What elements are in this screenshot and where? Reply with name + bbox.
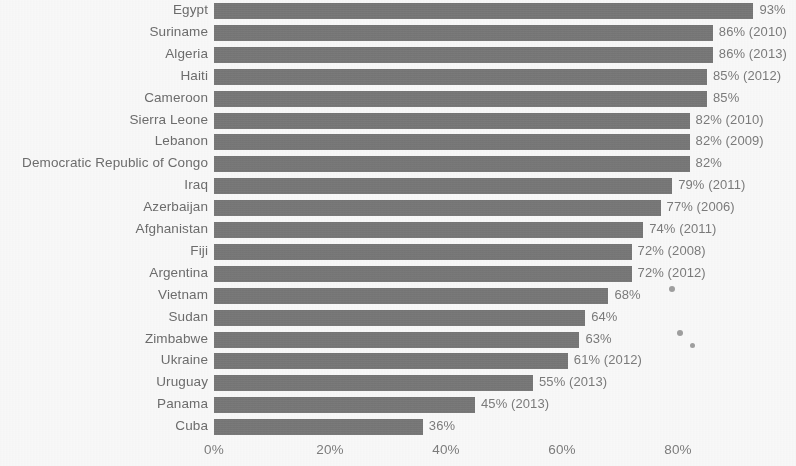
bar-value-label: 72% (2008) — [638, 243, 706, 259]
bar-value-label: 45% (2013) — [481, 396, 549, 412]
bar — [214, 47, 713, 63]
bar — [214, 91, 707, 107]
plot-area: Egypt93%Suriname86% (2010)Algeria86% (20… — [0, 0, 796, 466]
bar — [214, 266, 632, 282]
bar-value-label: 82% — [696, 155, 722, 171]
bar — [214, 244, 632, 260]
bar — [214, 69, 707, 85]
bar-row: Cameroon85% — [0, 90, 796, 112]
bar-value-label: 85% — [713, 90, 739, 106]
bar — [214, 353, 568, 369]
bar-row: Argentina72% (2012) — [0, 265, 796, 287]
bar-row: Uruguay55% (2013) — [0, 374, 796, 396]
bar-value-label: 77% (2006) — [667, 199, 735, 215]
bar-row: Ukraine61% (2012) — [0, 352, 796, 374]
category-label: Sierra Leone — [129, 112, 208, 128]
category-label: Fiji — [190, 243, 208, 259]
bar-value-label: 82% (2009) — [696, 133, 764, 149]
x-axis-tick-label: 40% — [432, 441, 460, 459]
bar — [214, 375, 533, 391]
bar — [214, 310, 585, 326]
scan-speck-artifact — [677, 330, 683, 336]
category-label: Democratic Republic of Congo — [22, 155, 208, 171]
category-label: Cuba — [175, 418, 208, 434]
category-label: Sudan — [168, 309, 208, 325]
bar — [214, 288, 608, 304]
x-axis-tick-label: 80% — [664, 441, 692, 459]
bar — [214, 134, 690, 150]
bar — [214, 156, 690, 172]
bar-row: Algeria86% (2013) — [0, 46, 796, 68]
bar — [214, 397, 475, 413]
bar-value-label: 61% (2012) — [574, 352, 642, 368]
category-label: Algeria — [165, 46, 208, 62]
bar-value-label: 82% (2010) — [696, 112, 764, 128]
category-label: Zimbabwe — [145, 331, 208, 347]
scan-speck-artifact — [669, 286, 675, 292]
category-label: Haiti — [180, 68, 208, 84]
bar-value-label: 72% (2012) — [638, 265, 706, 281]
bar-value-label: 79% (2011) — [678, 177, 745, 193]
x-axis-tick-label: 20% — [316, 441, 344, 459]
bar-row: Democratic Republic of Congo82% — [0, 155, 796, 177]
category-label: Lebanon — [155, 133, 208, 149]
bar-value-label: 64% — [591, 309, 617, 325]
category-label: Afghanistan — [136, 221, 208, 237]
category-label: Ukraine — [161, 352, 208, 368]
bar-row: Fiji72% (2008) — [0, 243, 796, 265]
bar-value-label: 86% (2010) — [719, 24, 787, 40]
bar-row: Haiti85% (2012) — [0, 68, 796, 90]
x-axis-tick-label: 0% — [204, 441, 224, 459]
bar-value-label: 55% (2013) — [539, 374, 607, 390]
bar — [214, 419, 423, 435]
bar-value-label: 93% — [759, 2, 785, 18]
bar — [214, 25, 713, 41]
x-axis: 0%20%40%60%80% — [0, 441, 796, 463]
bar-value-label: 63% — [585, 331, 611, 347]
category-label: Vietnam — [158, 287, 208, 303]
bar-value-label: 86% (2013) — [719, 46, 787, 62]
bar-value-label: 68% — [614, 287, 640, 303]
x-axis-tick-label: 60% — [548, 441, 576, 459]
bar — [214, 200, 661, 216]
bar-row: Iraq79% (2011) — [0, 177, 796, 199]
bar-row: Vietnam68% — [0, 287, 796, 309]
bar — [214, 222, 643, 238]
bar — [214, 178, 672, 194]
bar-row: Lebanon82% (2009) — [0, 133, 796, 155]
bar-value-label: 36% — [429, 418, 455, 434]
category-label: Uruguay — [156, 374, 208, 390]
bar-row: Egypt93% — [0, 2, 796, 24]
bar-row: Panama45% (2013) — [0, 396, 796, 418]
bar-row: Sierra Leone82% (2010) — [0, 112, 796, 134]
category-label: Iraq — [184, 177, 208, 193]
bar-value-label: 85% (2012) — [713, 68, 781, 84]
bar-row: Sudan64% — [0, 309, 796, 331]
bar-chart-figure: Egypt93%Suriname86% (2010)Algeria86% (20… — [0, 0, 796, 466]
bar — [214, 332, 579, 348]
scan-speck-artifact — [690, 343, 695, 348]
category-label: Egypt — [173, 2, 208, 18]
category-label: Azerbaijan — [143, 199, 208, 215]
category-label: Argentina — [149, 265, 208, 281]
bar-row: Cuba36% — [0, 418, 796, 440]
bar — [214, 3, 753, 19]
bar-row: Suriname86% (2010) — [0, 24, 796, 46]
bar-row: Afghanistan74% (2011) — [0, 221, 796, 243]
bar-value-label: 74% (2011) — [649, 221, 716, 237]
category-label: Suriname — [149, 24, 208, 40]
category-label: Cameroon — [144, 90, 208, 106]
bar — [214, 113, 690, 129]
bar-row: Azerbaijan77% (2006) — [0, 199, 796, 221]
category-label: Panama — [157, 396, 208, 412]
